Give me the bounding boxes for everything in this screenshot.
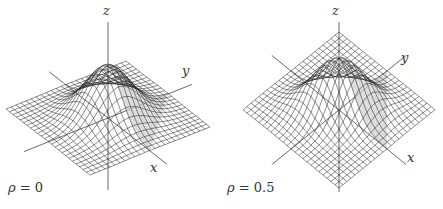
x-axis-label: x — [407, 150, 414, 165]
panel-rho-0.5: z y x ρ = 0.5 — [221, 0, 442, 209]
rho-label: ρ = 0 — [8, 180, 43, 195]
z-axis-label: z — [332, 3, 339, 18]
y-axis-label: y — [182, 63, 189, 78]
rho-label: ρ = 0.5 — [227, 180, 275, 195]
surface-plot-rho-0 — [0, 0, 221, 209]
x-axis-label: x — [150, 160, 157, 175]
surface-plot-rho-0.5 — [221, 0, 443, 209]
panel-rho-0: z y x ρ = 0 — [0, 0, 221, 209]
z-axis-label: z — [103, 3, 110, 18]
y-axis-label: y — [401, 50, 408, 65]
